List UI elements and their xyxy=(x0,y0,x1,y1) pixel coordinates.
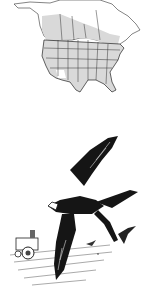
tractor-icon xyxy=(15,230,38,259)
distant-swallow-icon xyxy=(118,226,136,244)
swallow-illustration xyxy=(0,130,149,295)
swallow-icon xyxy=(0,130,149,295)
north-america-map-icon xyxy=(0,0,149,100)
range-map xyxy=(0,0,149,100)
